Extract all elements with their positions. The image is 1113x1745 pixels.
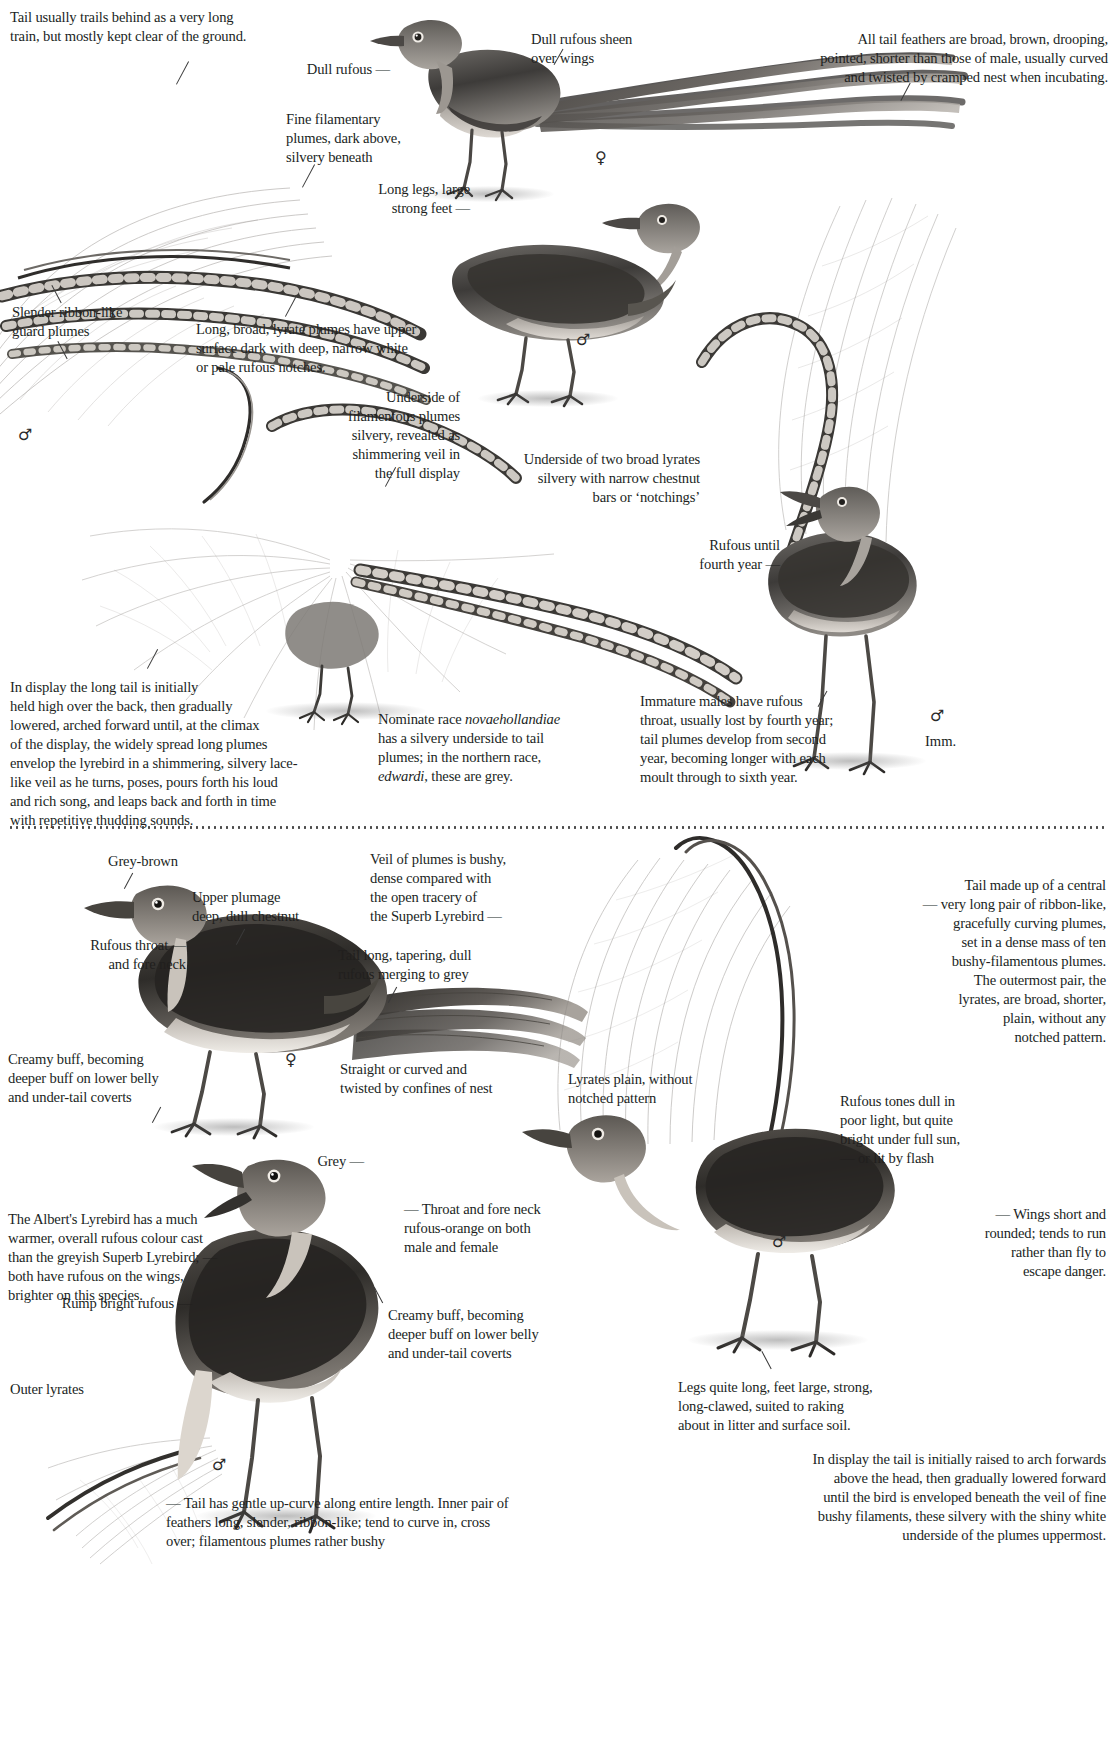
annotation-tail-upcurve: — Tail has gentle up-curve along entire … bbox=[166, 1494, 566, 1551]
annotation-legs-long: Legs quite long, feet large, strong, lon… bbox=[678, 1378, 998, 1435]
annotation-alberts-warmer: The Albert's Lyrebird has a much warmer,… bbox=[8, 1210, 298, 1305]
leader-tail-train bbox=[176, 61, 189, 85]
symbol-female-alberts: ♀ bbox=[285, 1050, 297, 1069]
annotation-dull-rufous: Dull rufous — bbox=[200, 60, 390, 79]
annotation-grey-brown: Grey-brown bbox=[108, 852, 268, 871]
annotation-tail-central-pair: Tail made up of a central — very long pa… bbox=[780, 876, 1106, 1047]
annotation-display-alberts: In display the tail is initially raised … bbox=[620, 1450, 1106, 1545]
annotation-outer-lyrates: Outer lyrates bbox=[10, 1380, 170, 1399]
race-note-text: Nominate race novaehollandiaehas a silve… bbox=[378, 711, 560, 784]
annotation-tail-train: Tail usually trails behind as a very lon… bbox=[10, 8, 300, 46]
annotation-nominate-race: Nominate race novaehollandiaehas a silve… bbox=[378, 710, 618, 786]
annotation-tail-long-tapering: Tail long, tapering, dull rufous merging… bbox=[338, 946, 568, 984]
symbol-male-alberts-right: ♂ bbox=[772, 1232, 786, 1251]
section-divider bbox=[8, 826, 1105, 829]
annotation-underside-lyrates: Underside of two broad lyrates silvery w… bbox=[460, 450, 700, 507]
annotation-lyrate-plumes: Long, broad, lyrate plumes have upper su… bbox=[196, 320, 486, 377]
annotation-creamy-buff-male: Creamy buff, becoming deeper buff on low… bbox=[388, 1306, 638, 1363]
symbol-male-immature: ♂ bbox=[930, 706, 944, 725]
annotation-straight-or-curved: Straight or curved and twisted by confin… bbox=[340, 1060, 590, 1098]
label-immature: Imm. bbox=[925, 733, 956, 750]
annotation-veil-of-plumes: Veil of plumes is bushy, dense compared … bbox=[370, 850, 620, 926]
annotation-rump-bright-rufous: Rump bright rufous — bbox=[4, 1294, 192, 1313]
symbol-female-top: ♀ bbox=[595, 148, 607, 167]
annotation-display-description: In display the long tail is initially he… bbox=[10, 678, 360, 830]
annotation-rufous-fourth-year: Rufous until fourth year — bbox=[600, 536, 780, 574]
annotation-immature-males: Immature males have rufous throat, usual… bbox=[640, 692, 940, 787]
annotation-female-tail: All tail feathers are broad, brown, droo… bbox=[690, 30, 1108, 87]
annotation-grey: Grey — bbox=[250, 1152, 364, 1171]
annotation-throat-fore-neck: — Throat and fore neck rufous-orange on … bbox=[404, 1200, 644, 1257]
plate-page: Tail usually trails behind as a very lon… bbox=[0, 0, 1113, 1745]
symbol-male-alberts-left: ♂ bbox=[212, 1455, 226, 1474]
annotation-lyrates-plain: Lyrates plain, without notched pattern bbox=[568, 1070, 788, 1108]
annotation-rufous-tones: Rufous tones dull in poor light, but qui… bbox=[840, 1092, 1090, 1168]
annotation-wings-short: — Wings short and rounded; tends to run … bbox=[820, 1205, 1106, 1281]
annotation-underside-plumes: Underside of filamentous plumes silvery,… bbox=[300, 388, 460, 483]
symbol-male-standing: ♂ bbox=[576, 330, 590, 349]
annotation-guard-plumes: Slender ribbon-like guard plumes bbox=[12, 303, 222, 341]
annotation-long-legs: Long legs, large strong feet — bbox=[300, 180, 470, 218]
annotation-creamy-buff-female: Creamy buff, becoming deeper buff on low… bbox=[8, 1050, 248, 1107]
annotation-filamentary-plumes: Fine filamentary plumes, dark above, sil… bbox=[286, 110, 506, 167]
annotation-rufous-throat: Rufous throat — and fore neck bbox=[0, 936, 186, 974]
symbol-male-display: ♂ bbox=[18, 425, 32, 444]
